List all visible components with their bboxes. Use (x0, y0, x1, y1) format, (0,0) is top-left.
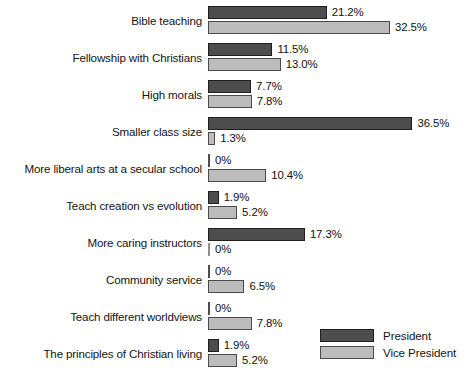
bar-line: 1.3% (208, 132, 470, 145)
chart-plot-area: Bible teaching21.2%32.5%Fellowship with … (0, 6, 470, 371)
category-bar-group: 17.3%0% (208, 228, 470, 258)
bar-line: 10.4% (208, 169, 470, 182)
category-bar-group: 1.9%5.2% (208, 191, 470, 221)
bar-vice-president (208, 132, 215, 145)
chart-legend: President Vice President (320, 326, 456, 360)
category-label: High morals (142, 80, 202, 110)
chart-category-row: Community service0%6.5% (0, 265, 470, 295)
legend-label-vice-president: Vice President (383, 346, 456, 359)
category-label: More caring instructors (88, 228, 202, 258)
category-label: Teach creation vs evolution (66, 191, 202, 221)
chart-category-row: More liberal arts at a secular school0%1… (0, 154, 470, 184)
bar-value-label: 1.9% (224, 339, 250, 352)
category-label: Fellowship with Christians (73, 43, 202, 73)
bar-line: 6.5% (208, 280, 470, 293)
bar-president (208, 228, 305, 241)
bar-value-label: 5.2% (242, 354, 268, 367)
bar-value-label: 6.5% (249, 280, 275, 293)
legend-label-president: President (383, 329, 431, 342)
chart-category-row: More caring instructors17.3%0% (0, 228, 470, 258)
bar-value-label: 21.2% (332, 6, 364, 19)
bar-line: 32.5% (208, 21, 470, 34)
category-label: Bible teaching (131, 6, 202, 36)
category-label: More liberal arts at a secular school (25, 154, 202, 184)
bar-line: 5.2% (208, 206, 470, 219)
chart-category-row: Bible teaching21.2%32.5% (0, 6, 470, 36)
bar-value-label: 17.3% (310, 228, 342, 241)
bar-president (208, 43, 272, 56)
bar-value-label: 0% (215, 302, 231, 315)
legend-swatch-vice-president-icon (320, 346, 374, 359)
category-label: Teach different worldviews (70, 302, 202, 332)
bar-president (208, 191, 219, 204)
chart-category-row: Teach creation vs evolution1.9%5.2% (0, 191, 470, 221)
bar-value-label: 1.3% (220, 132, 246, 145)
bar-value-label: 7.8% (257, 95, 283, 108)
category-bar-group: 21.2%32.5% (208, 6, 470, 36)
bar-vice-president (208, 206, 237, 219)
category-bar-group: 11.5%13.0% (208, 43, 470, 73)
bar-president (208, 339, 219, 352)
bar-president (208, 265, 210, 278)
bar-value-label: 11.5% (277, 43, 308, 56)
bar-president (208, 80, 251, 93)
bar-vice-president (208, 58, 281, 71)
bar-line: 7.7% (208, 80, 470, 93)
bar-vice-president (208, 317, 252, 330)
chart-category-row: High morals7.7%7.8% (0, 80, 470, 110)
bar-vice-president (208, 280, 244, 293)
bar-value-label: 13.0% (286, 58, 318, 71)
bar-vice-president (208, 243, 210, 256)
bar-value-label: 10.4% (271, 169, 303, 182)
bar-vice-president (208, 169, 266, 182)
bar-president (208, 154, 210, 167)
bar-line: 36.5% (208, 117, 470, 130)
bar-vice-president (208, 354, 237, 367)
bar-president (208, 6, 327, 19)
category-label: Smaller class size (112, 117, 202, 147)
legend-item-vice-president: Vice President (320, 343, 456, 357)
bar-value-label: 0% (215, 154, 231, 167)
chart-category-row: Smaller class size36.5%1.3% (0, 117, 470, 147)
bar-president (208, 117, 412, 130)
bar-line: 17.3% (208, 228, 470, 241)
bar-line: 11.5% (208, 43, 470, 56)
bar-value-label: 36.5% (417, 117, 449, 130)
bar-line: 0% (208, 302, 470, 315)
category-bar-group: 0%6.5% (208, 265, 470, 295)
bar-line: 13.0% (208, 58, 470, 71)
legend-swatch-president-icon (320, 329, 374, 342)
bar-value-label: 7.8% (257, 317, 283, 330)
bar-value-label: 1.9% (224, 191, 250, 204)
bar-vice-president (208, 21, 390, 34)
bar-line: 21.2% (208, 6, 470, 19)
bar-line: 1.9% (208, 191, 470, 204)
category-bar-group: 7.7%7.8% (208, 80, 470, 110)
bar-value-label: 7.7% (256, 80, 282, 93)
bar-line: 7.8% (208, 95, 470, 108)
chart-category-row: Fellowship with Christians11.5%13.0% (0, 43, 470, 73)
bar-line: 0% (208, 243, 470, 256)
bar-value-label: 0% (215, 243, 231, 256)
bar-value-label: 32.5% (395, 21, 427, 34)
bar-line: 0% (208, 265, 470, 278)
category-bar-group: 36.5%1.3% (208, 117, 470, 147)
category-label: The principles of Christian living (43, 339, 202, 369)
bar-value-label: 5.2% (242, 206, 268, 219)
bar-line: 0% (208, 154, 470, 167)
category-label: Community service (106, 265, 202, 295)
bar-vice-president (208, 95, 252, 108)
legend-item-president: President (320, 326, 456, 340)
bar-president (208, 302, 210, 315)
category-bar-group: 0%10.4% (208, 154, 470, 184)
bar-value-label: 0% (215, 265, 231, 278)
